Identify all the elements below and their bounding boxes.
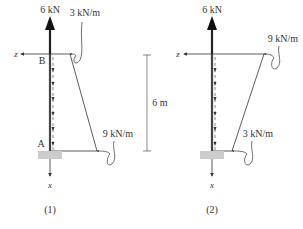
- point-load-label: 6 kN: [40, 4, 60, 15]
- leader-loop-icon: [97, 141, 115, 165]
- bottom-load-label: 3 kN/m: [243, 128, 274, 139]
- leader-loop-icon: [70, 22, 82, 63]
- dimension-6m: 6 m: [143, 55, 168, 151]
- fixed-support: [38, 151, 62, 159]
- distributed-axial-load-icon: [52, 57, 55, 150]
- top-load-label: 3 kN/m: [70, 7, 101, 18]
- distributed-axial-load-icon: [214, 57, 217, 150]
- dimension-label: 6 m: [152, 97, 168, 108]
- z-axis-label: z: [13, 49, 18, 59]
- caption-2: (2): [206, 204, 218, 216]
- point-a-label: A: [37, 138, 45, 149]
- bottom-load-label: 9 kN/m: [103, 128, 134, 139]
- fixed-support: [200, 151, 224, 159]
- point-load-label: 6 kN: [202, 4, 222, 15]
- top-load-label: 9 kN/m: [268, 33, 299, 44]
- point-load-arrow-icon: [45, 16, 55, 54]
- point-load-arrow-icon: [207, 16, 217, 54]
- diagram-1: 6 kN z B A 3 kN/m 9 kN/m: [13, 4, 133, 216]
- leader-loop-icon: [232, 141, 253, 165]
- x-axis-label: x: [47, 180, 52, 190]
- point-b-label: B: [39, 55, 46, 66]
- column-load-diagram: 6 kN z B A 3 kN/m 9 kN/m: [0, 0, 303, 229]
- trapezoidal-load-outline: [50, 54, 97, 151]
- caption-1: (1): [44, 204, 56, 216]
- diagram-2: 6 kN z 9 kN/m 3 kN/m x (2): [175, 4, 298, 216]
- leader-loop-icon: [264, 46, 280, 69]
- z-axis-label: z: [175, 49, 180, 59]
- x-axis-label: x: [209, 180, 214, 190]
